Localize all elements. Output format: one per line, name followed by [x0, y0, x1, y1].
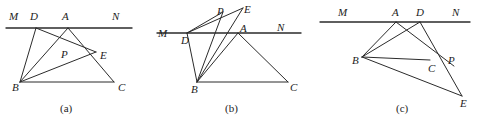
panel-c-vertex-label-c: C — [428, 63, 435, 74]
panel-a-segment-AC — [68, 28, 114, 82]
panel-a-vertex-label-c: C — [118, 82, 125, 93]
panel-c-segment-BC — [362, 57, 430, 60]
panel-a-vertex-label-m: M — [9, 11, 18, 22]
panel-c: MADNBCPE(c) — [310, 0, 478, 130]
panel-b-vertex-label-a: A — [240, 23, 247, 34]
panel-b-vertex-label-e: E — [244, 4, 251, 15]
panel-a-vertex-label-p: P — [61, 49, 68, 60]
panel-a-drawing — [0, 0, 155, 130]
panel-a-caption: (a) — [60, 103, 72, 114]
panel-a-vertex-label-d: D — [30, 11, 38, 22]
panel-b: MDANPEBC(b) — [155, 0, 310, 130]
panel-c-segment-BE — [362, 57, 462, 96]
panel-b-segment-DE — [187, 8, 243, 33]
panel-c-segment-DE — [420, 22, 462, 96]
figure-sheet: MDANPEBC(a)MDANPEBC(b)MADNBCPE(c) — [0, 0, 478, 130]
panel-c-vertex-label-n: N — [452, 7, 459, 18]
panel-a-vertex-label-e: E — [100, 50, 107, 61]
panel-c-vertex-label-d: D — [416, 7, 424, 18]
panel-b-vertex-label-p: P — [217, 6, 224, 17]
panel-b-vertex-label-n: N — [277, 22, 284, 33]
panel-b-segment-AC — [238, 33, 288, 82]
panel-b-caption: (b) — [225, 103, 238, 114]
panel-a-vertex-label-a: A — [62, 11, 69, 22]
panel-a-vertex-label-b: B — [12, 82, 19, 93]
panel-c-caption: (c) — [396, 103, 408, 114]
panel-c-vertex-label-b: B — [352, 55, 359, 66]
panel-a-segment-DB — [20, 28, 36, 82]
panel-c-vertex-label-m: M — [338, 7, 347, 18]
panel-c-vertex-label-a: A — [392, 7, 399, 18]
panel-a: MDANPEBC(a) — [0, 0, 155, 130]
panel-b-vertex-label-b: B — [191, 84, 198, 95]
panel-a-vertex-label-n: N — [112, 11, 119, 22]
panel-b-segment-BA — [197, 33, 238, 82]
panel-b-vertex-label-d: D — [181, 35, 189, 46]
panel-c-vertex-label-p: P — [448, 55, 455, 66]
panel-b-vertex-label-c: C — [290, 82, 297, 93]
panel-c-vertex-label-e: E — [460, 98, 467, 109]
panel-a-segment-BE — [20, 52, 96, 82]
panel-b-vertex-label-m: M — [158, 28, 167, 39]
